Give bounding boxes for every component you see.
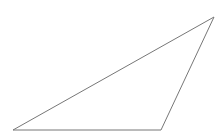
obtuse-triangle	[13, 17, 214, 130]
diagram-canvas	[0, 0, 218, 140]
